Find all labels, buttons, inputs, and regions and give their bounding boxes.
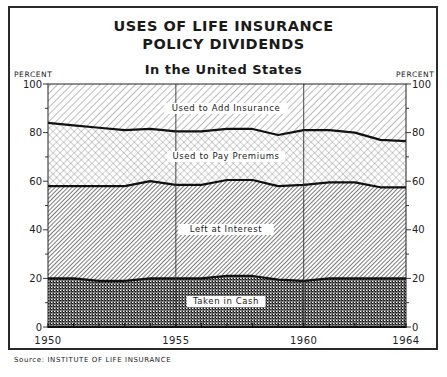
- y-tick-left-60: 60: [29, 176, 42, 187]
- y-tick-right-0: 0: [412, 322, 418, 333]
- svg-text:Used to Add Insurance: Used to Add Insurance: [172, 103, 281, 113]
- svg-text:Taken in Cash: Taken in Cash: [192, 296, 259, 306]
- x-tick-1960: 1960: [290, 335, 317, 346]
- region-label-0: Used to Add Insurance: [164, 103, 288, 114]
- y-tick-right-80: 80: [412, 127, 425, 138]
- svg-text:Left at Interest: Left at Interest: [190, 224, 262, 234]
- svg-text:Used to Pay Premiums: Used to Pay Premiums: [172, 151, 279, 161]
- stacked-area-chart: 0020204040606080801001001950195519601964…: [0, 0, 447, 377]
- x-tick-1950: 1950: [34, 335, 61, 346]
- y-tick-left-80: 80: [29, 127, 42, 138]
- y-tick-right-100: 100: [412, 79, 431, 90]
- y-tick-left-40: 40: [29, 224, 42, 235]
- y-tick-right-20: 20: [412, 273, 425, 284]
- x-tick-1955: 1955: [162, 335, 189, 346]
- region-label-2: Left at Interest: [178, 224, 274, 235]
- y-tick-right-40: 40: [412, 224, 425, 235]
- area-regions: [48, 84, 406, 327]
- x-tick-1964: 1964: [392, 335, 419, 346]
- region-label-1: Used to Pay Premiums: [167, 151, 285, 162]
- region-label-3: Taken in Cash: [187, 296, 266, 307]
- y-tick-left-100: 100: [23, 79, 42, 90]
- source-note: Source: INSTITUTE OF LIFE INSURANCE: [14, 356, 171, 364]
- y-tick-left-0: 0: [36, 322, 42, 333]
- y-tick-right-60: 60: [412, 176, 425, 187]
- y-tick-left-20: 20: [29, 273, 42, 284]
